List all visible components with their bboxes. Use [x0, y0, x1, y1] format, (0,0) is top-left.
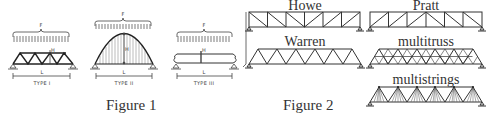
multitruss-diagram	[366, 49, 486, 68]
warren-truss-diagram	[245, 49, 365, 68]
multistrings-diagram	[366, 86, 486, 106]
pratt-truss-diagram	[366, 12, 486, 31]
warren-label: Warren	[285, 35, 326, 49]
figure-2-drawings	[0, 0, 491, 121]
howe-truss-diagram	[245, 12, 364, 31]
pratt-label: Pratt	[413, 0, 439, 13]
multistrings-label: multistrings	[393, 73, 460, 87]
multitruss-label: multitruss	[398, 35, 454, 49]
figure-2: Howe Pratt Warren multitruss multistring…	[0, 0, 491, 121]
figure-2-caption: Figure 2	[283, 97, 333, 114]
howe-label: Howe	[288, 0, 321, 13]
